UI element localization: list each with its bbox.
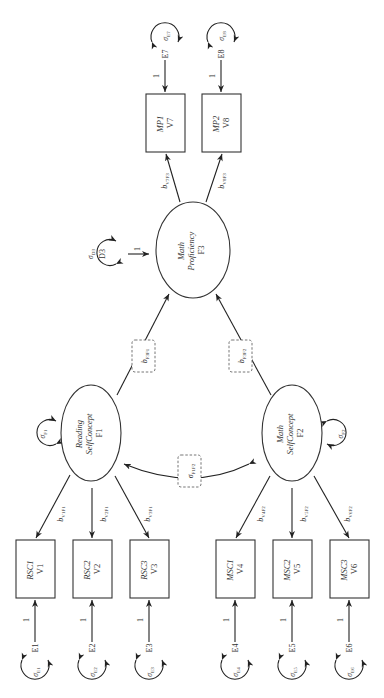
- loading-paths-F1: [36, 475, 149, 538]
- svg-text:σE2: σE2: [88, 667, 98, 677]
- svg-text:1: 1: [336, 618, 345, 622]
- svg-text:bV5F2: bV5F2: [299, 506, 309, 522]
- sem-path-diagram: bF3F1 bF3F2 σF1F2 Reading SelfConcept F1…: [0, 0, 384, 698]
- svg-text:σE7: σE7: [161, 31, 171, 41]
- svg-text:1: 1: [22, 618, 31, 622]
- error-variance-loops-bottom: [21, 660, 363, 679]
- svg-text:E5: E5: [288, 644, 297, 653]
- svg-text:σE4: σE4: [231, 667, 241, 677]
- svg-text:1: 1: [152, 74, 161, 78]
- svg-text:D3: D3: [98, 249, 107, 259]
- label-box-bF3F2: bF3F2: [229, 340, 252, 372]
- indicator-V2: RSC2 V2: [73, 540, 112, 598]
- svg-text:1: 1: [279, 618, 288, 622]
- svg-text:σF1: σF1: [38, 429, 48, 438]
- loading-paths-F3: [166, 154, 222, 202]
- factor-F2: Math SelfConcept F2: [262, 385, 322, 481]
- svg-text:bV1F1: bV1F1: [56, 506, 66, 522]
- loading-paths-F2: [236, 476, 349, 538]
- indicator-V4: MSC1 V4: [216, 540, 255, 598]
- svg-text:E1: E1: [31, 644, 40, 653]
- indicator-V3: RSC3 V3: [130, 540, 169, 598]
- svg-text:E8: E8: [217, 50, 226, 59]
- svg-text:E6: E6: [345, 644, 354, 653]
- factor-F3: Math Proficiency F3: [156, 202, 230, 298]
- indicator-V7: MP1 V7: [146, 94, 185, 152]
- svg-text:σE1: σE1: [31, 667, 41, 677]
- svg-text:1: 1: [208, 74, 217, 78]
- indicator-V5: MSC2 V5: [273, 540, 312, 598]
- indicator-V6: MSC3 V6: [330, 540, 369, 598]
- svg-text:E7: E7: [161, 50, 170, 59]
- svg-text:bV8F3: bV8F3: [217, 173, 227, 189]
- svg-text:σE5: σE5: [288, 667, 298, 677]
- svg-text:σE8: σE8: [217, 31, 227, 41]
- factor-F1: Reading SelfConcept F1: [61, 385, 121, 481]
- svg-text:E2: E2: [88, 644, 97, 653]
- svg-text:σE3: σE3: [145, 667, 155, 677]
- svg-text:bV3F1: bV3F1: [143, 506, 153, 522]
- svg-text:1: 1: [222, 618, 231, 622]
- svg-text:σE6: σE6: [345, 667, 355, 677]
- svg-text:bV7F3: bV7F3: [160, 173, 170, 189]
- svg-text:E3: E3: [145, 644, 154, 653]
- svg-text:E4: E4: [231, 644, 240, 653]
- indicator-V8: MP2 V8: [202, 94, 241, 152]
- svg-text:1: 1: [133, 247, 142, 251]
- svg-text:σD3: σD3: [86, 249, 96, 259]
- label-box-sigmaF1F2: σF1F2: [178, 455, 201, 487]
- svg-text:bV6F2: bV6F2: [343, 506, 353, 522]
- label-box-bF3F1: bF3F1: [132, 340, 155, 372]
- indicator-V1: RSC1 V1: [16, 540, 55, 598]
- svg-text:bV4F2: bV4F2: [256, 506, 266, 522]
- svg-text:1: 1: [79, 618, 88, 622]
- svg-text:σF2: σF2: [336, 429, 346, 438]
- svg-text:bV2F1: bV2F1: [99, 506, 109, 522]
- svg-text:1: 1: [136, 618, 145, 622]
